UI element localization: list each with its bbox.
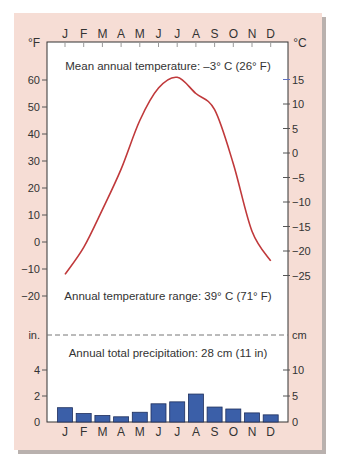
precip-bar [245, 413, 260, 422]
celsius-unit-label: °C [293, 36, 307, 50]
precip-bar [263, 415, 278, 422]
tick-label: 4 [34, 364, 40, 376]
tick-label: −25 [292, 270, 311, 282]
tick-label: −15 [292, 221, 311, 233]
precip-bar [76, 414, 91, 422]
month-label: O [229, 27, 238, 41]
month-label: D [266, 27, 275, 41]
tick-label: 10 [292, 364, 304, 376]
month-label: N [248, 27, 257, 41]
month-label: M [97, 27, 107, 41]
precip-bar [114, 417, 129, 422]
fahrenheit-axis: 6050403020100−10−20 [21, 74, 47, 302]
inches-axis: 420 [34, 364, 47, 428]
tick-label: 40 [28, 128, 40, 140]
mean-temp-annotation: Mean annual temperature: –3° C (26° F) [65, 60, 271, 72]
tick-label: 0 [292, 416, 298, 428]
month-label: A [117, 27, 125, 41]
tick-label: −20 [21, 290, 40, 302]
tick-label: 5 [292, 123, 298, 135]
precip-bar [170, 402, 185, 422]
temp-range-annotation: Annual temperature range: 39° C (71° F) [64, 290, 272, 302]
month-label: F [80, 27, 87, 41]
climograph: JFMAMJJASOND JFMAMJJASOND 6050403020100−… [0, 0, 337, 463]
month-label: D [266, 425, 275, 439]
precip-total-annotation: Annual total precipitation: 28 cm (11 in… [69, 347, 268, 359]
month-label: A [192, 425, 200, 439]
month-label: J [156, 425, 162, 439]
bottom-month-labels: JFMAMJJASOND [62, 425, 275, 439]
tick-label: 2 [34, 390, 40, 402]
month-label: N [248, 425, 257, 439]
tick-label: 15 [292, 74, 304, 86]
precip-bar [207, 407, 222, 422]
tick-label: −10 [292, 196, 311, 208]
tick-label: 0 [34, 236, 40, 248]
month-label: J [156, 27, 162, 41]
month-label: S [211, 27, 219, 41]
month-label: M [135, 27, 145, 41]
fahrenheit-unit-label: °F [28, 36, 40, 50]
precip-bar [226, 409, 241, 422]
tick-label: 50 [28, 101, 40, 113]
tick-label: 0 [292, 147, 298, 159]
tick-label: −10 [21, 263, 40, 275]
month-label: A [117, 425, 125, 439]
tick-label: 0 [34, 416, 40, 428]
tick-label: 10 [292, 98, 304, 110]
month-label: S [211, 425, 219, 439]
precip-bar [95, 416, 110, 423]
tick-label: 60 [28, 74, 40, 86]
month-label: J [62, 425, 68, 439]
tick-label: 20 [28, 182, 40, 194]
tick-label: 5 [292, 390, 298, 402]
month-label: J [62, 27, 68, 41]
precip-bar [58, 408, 73, 422]
inches-unit-label: in. [28, 329, 40, 341]
tick-label: −20 [292, 245, 311, 257]
precip-bar [188, 394, 203, 422]
precip-bar [132, 412, 147, 422]
cm-unit-label: cm [292, 329, 307, 341]
tick-label: 10 [28, 209, 40, 221]
month-label: O [229, 425, 238, 439]
month-label: M [97, 425, 107, 439]
month-label: M [135, 425, 145, 439]
month-label: A [192, 27, 200, 41]
month-label: J [174, 425, 180, 439]
tick-label: 30 [28, 155, 40, 167]
precip-bar [151, 404, 166, 422]
tick-label: −5 [292, 172, 305, 184]
month-label: J [174, 27, 180, 41]
month-label: F [80, 425, 87, 439]
